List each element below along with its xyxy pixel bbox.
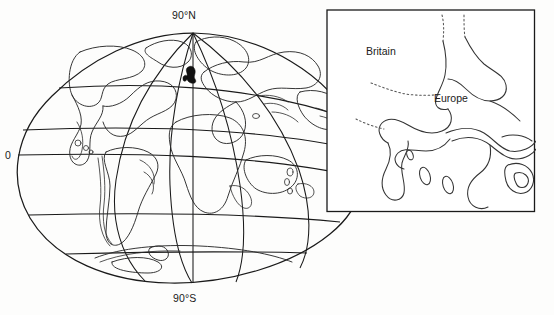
label-equator: 0 [5,149,11,161]
coastline-islands [75,114,293,195]
label-britain: Britain [366,45,396,57]
britain-highlight [183,66,196,83]
label-europe: Europe [434,92,468,104]
inset-map [326,9,536,213]
label-south-pole: 90°S [173,292,196,304]
coastline-australia [244,156,314,199]
label-north-pole: 90°N [172,9,196,21]
coastline-greenland [145,37,249,75]
map-figure: 90°N 90°S 0 Britain Europe [0,0,554,315]
world-globe [0,0,380,315]
coastline-eurasia [201,52,346,144]
coastline-south-america [98,148,158,247]
